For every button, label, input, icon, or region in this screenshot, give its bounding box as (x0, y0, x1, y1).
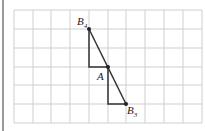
point-b4 (87, 27, 91, 31)
label-b3: B3 (127, 104, 138, 119)
label-a: A (96, 70, 104, 82)
point-a (106, 65, 110, 69)
label-b4: B4 (77, 15, 88, 30)
grid-diagram: B4 A B3 (0, 0, 205, 131)
